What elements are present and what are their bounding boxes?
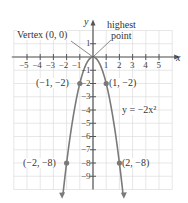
highest-label-line1: highest bbox=[107, 20, 136, 30]
y-tick-label: −6 bbox=[81, 132, 91, 141]
x-tick-label: −4 bbox=[32, 61, 42, 70]
x-tick-label: 4 bbox=[143, 61, 148, 70]
y-axis-arrow-icon bbox=[91, 20, 96, 26]
highest-label-line2: point bbox=[111, 31, 132, 41]
vertex-label: Vertex (0, 0) bbox=[17, 30, 67, 40]
x-tick-label: −1 bbox=[72, 61, 82, 70]
y-tick-label: 1 bbox=[86, 39, 91, 48]
x-tick-label: −2 bbox=[59, 61, 69, 70]
curve-arrows bbox=[59, 192, 127, 199]
x-tick-label: 2 bbox=[117, 61, 122, 70]
highest-leader-line bbox=[93, 40, 111, 57]
y-tick-label: −1 bbox=[81, 66, 91, 75]
curve-arrow-icon bbox=[59, 192, 65, 199]
point-label-pos1: (1, −2) bbox=[109, 78, 136, 88]
point-label-neg1: (−1, −2) bbox=[36, 78, 69, 88]
x-tick-label: 1 bbox=[104, 61, 109, 70]
annotation-leaders bbox=[71, 40, 111, 57]
data-point bbox=[64, 160, 69, 165]
x-tick-label: 3 bbox=[130, 61, 135, 70]
x-tick-label: 5 bbox=[157, 61, 162, 70]
y-tick-label: −3 bbox=[81, 92, 91, 101]
y-tick-label: −9 bbox=[81, 172, 91, 181]
x-tick-label: −3 bbox=[45, 61, 55, 70]
y-tick-label: −8 bbox=[81, 159, 91, 168]
x-axis-label: x bbox=[176, 53, 180, 63]
point-label-neg2: (−2, −8) bbox=[23, 158, 56, 168]
curve-arrow-icon bbox=[121, 192, 127, 199]
y-tick-label: −5 bbox=[81, 119, 91, 128]
x-tick-label: −5 bbox=[19, 61, 29, 70]
equation-label: y = −2x² bbox=[122, 105, 156, 115]
y-tick-label: −2 bbox=[81, 79, 91, 88]
y-tick-label: −7 bbox=[81, 145, 91, 154]
y-axis-label: y bbox=[84, 17, 88, 27]
y-tick-label: −4 bbox=[81, 106, 91, 115]
point-label-pos2: (2, −8) bbox=[122, 158, 149, 168]
